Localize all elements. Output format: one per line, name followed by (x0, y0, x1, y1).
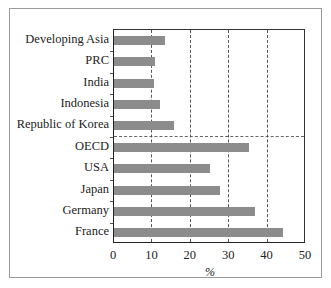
category-label: Developing Asia (25, 32, 109, 46)
bar (114, 186, 220, 195)
x-axis-label: % (200, 265, 220, 280)
category-label: Indonesia (60, 96, 109, 110)
bar (114, 164, 210, 173)
x-tick-label: 30 (213, 248, 243, 263)
bar (114, 143, 249, 152)
bar (114, 36, 165, 45)
x-tick-label: 40 (252, 248, 282, 263)
bar (114, 100, 160, 109)
y-tick (110, 180, 113, 181)
y-tick (110, 137, 113, 138)
plot-area (113, 29, 305, 243)
x-tick-label: 20 (175, 248, 205, 263)
bar (114, 207, 255, 216)
bar (114, 79, 154, 88)
category-label: Germany (62, 203, 109, 217)
bar (114, 57, 155, 66)
category-label: OECD (75, 139, 109, 153)
y-tick (110, 73, 113, 74)
category-label: India (83, 75, 109, 89)
group-separator-line (114, 136, 304, 137)
gridline (267, 30, 268, 242)
y-tick (110, 223, 113, 224)
bar (114, 121, 174, 130)
category-label: Japan (81, 182, 109, 196)
y-tick (110, 94, 113, 95)
category-label: Republic of Korea (17, 117, 109, 131)
category-label: USA (84, 160, 109, 174)
y-tick (110, 158, 113, 159)
bar (114, 228, 283, 237)
y-tick (110, 51, 113, 52)
y-tick (110, 116, 113, 117)
x-tick-label: 0 (98, 248, 128, 263)
x-tick-label: 50 (290, 248, 320, 263)
y-tick (110, 201, 113, 202)
category-label: France (75, 224, 109, 238)
category-label: PRC (85, 53, 109, 67)
x-tick-label: 10 (136, 248, 166, 263)
